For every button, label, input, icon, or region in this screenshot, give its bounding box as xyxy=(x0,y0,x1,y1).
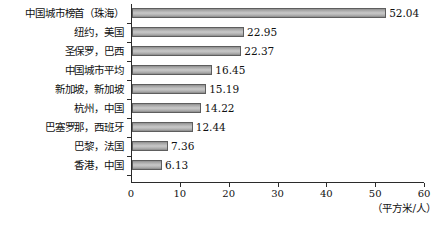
bar-value-label: 14.22 xyxy=(204,100,234,117)
bar xyxy=(132,103,201,113)
bar-row: 15.19 xyxy=(132,80,425,99)
bar-value-label: 22.95 xyxy=(247,24,277,41)
bar-row: 52.04 xyxy=(132,4,425,23)
y-axis-tick xyxy=(127,175,131,176)
bar xyxy=(132,84,206,94)
y-axis-tick xyxy=(127,80,131,81)
y-axis-tick xyxy=(127,61,131,62)
y-axis-tick xyxy=(127,156,131,157)
bar xyxy=(132,141,168,151)
category-label: 中国城市平均 xyxy=(65,61,124,80)
bar-value-label: 7.36 xyxy=(171,138,194,155)
bar-value-label: 6.13 xyxy=(165,157,188,174)
y-axis-tick xyxy=(127,23,131,24)
y-axis-tick xyxy=(127,99,131,100)
bar xyxy=(132,65,212,75)
category-label: 圣保罗，巴西 xyxy=(65,42,124,61)
bar xyxy=(132,122,193,132)
x-axis-tick xyxy=(326,183,327,187)
bar xyxy=(132,160,162,170)
bar-value-label: 16.45 xyxy=(215,62,245,79)
y-axis-tick xyxy=(127,137,131,138)
x-axis-tick-label: 0 xyxy=(116,188,146,199)
bar-row: 16.45 xyxy=(132,61,425,80)
bar-row: 6.13 xyxy=(132,156,425,175)
bar xyxy=(132,8,386,18)
x-axis-tick-label: 50 xyxy=(360,188,390,199)
x-axis-tick-label: 10 xyxy=(165,188,195,199)
bar-value-label: 22.37 xyxy=(244,43,274,60)
x-axis-tick-label: 60 xyxy=(409,188,439,199)
category-label: 巴塞罗那，西班牙 xyxy=(45,118,124,137)
category-label: 新加坡，新加坡 xyxy=(55,80,124,99)
category-label: 香港，中国 xyxy=(74,156,124,175)
y-axis-tick xyxy=(127,42,131,43)
x-axis-tick-label: 20 xyxy=(214,188,244,199)
x-axis-unit-caption: （平方米/人） xyxy=(372,200,436,215)
bar-row: 12.44 xyxy=(132,118,425,137)
bar-row: 22.37 xyxy=(132,42,425,61)
x-axis-tick xyxy=(180,183,181,187)
category-label: 纽约，美国 xyxy=(74,23,124,42)
x-axis-tick-label: 40 xyxy=(311,188,341,199)
bar-row: 22.95 xyxy=(132,23,425,42)
bar-row: 14.22 xyxy=(132,99,425,118)
category-label: 中国城市榜首（珠海） xyxy=(25,4,124,23)
bar xyxy=(132,27,244,37)
plot-area: 52.0422.9522.3716.4515.1914.2212.447.366… xyxy=(131,4,424,182)
bar xyxy=(132,46,241,56)
bar-value-label: 52.04 xyxy=(389,5,419,22)
category-label: 杭州，中国 xyxy=(74,99,124,118)
x-axis-tick-label: 30 xyxy=(263,188,293,199)
x-axis-tick xyxy=(424,183,425,187)
x-axis-tick xyxy=(278,183,279,187)
category-label: 巴黎，法国 xyxy=(74,137,124,156)
x-axis-tick xyxy=(375,183,376,187)
bar-chart: 中国城市榜首（珠海）纽约，美国圣保罗，巴西中国城市平均新加坡，新加坡杭州，中国巴… xyxy=(0,0,444,226)
bar-row: 7.36 xyxy=(132,137,425,156)
y-axis-tick xyxy=(127,118,131,119)
x-axis-tick xyxy=(229,183,230,187)
bar-value-label: 15.19 xyxy=(209,81,239,98)
bar-value-label: 12.44 xyxy=(196,119,226,136)
